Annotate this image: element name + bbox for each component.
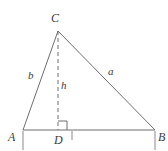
vertex-label-d: D (54, 134, 63, 146)
right-angle-marker-icon (58, 121, 67, 130)
side-a-line (58, 31, 155, 130)
vertex-label-c: C (51, 12, 59, 24)
triangle-diagram-canvas (0, 0, 168, 151)
vertex-label-a: A (8, 131, 15, 143)
geometry-figure: A B C D b a h (0, 0, 168, 151)
side-label-b: b (28, 70, 34, 81)
side-label-a: a (108, 66, 114, 77)
vertex-label-b: B (158, 131, 165, 143)
altitude-label-h: h (61, 80, 67, 91)
